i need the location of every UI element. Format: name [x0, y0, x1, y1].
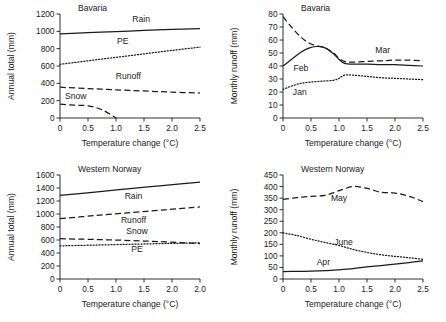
panel-bavaria-annual: Bavaria02004006008001000120000.51.01.52.…	[0, 0, 223, 161]
y-tick-label: 300	[264, 205, 278, 215]
y-tick-label: 40	[268, 61, 278, 71]
series-curve-apr	[283, 261, 423, 272]
series-label-apr: Apr	[317, 257, 331, 267]
x-tick-label: 2.0	[389, 284, 401, 294]
y-tick-label: 0	[50, 274, 55, 284]
series-label-rain: Rain	[125, 191, 143, 201]
x-tick-label: 0	[281, 284, 286, 294]
series-label-pe: PE	[117, 36, 129, 46]
x-axis-title: Temperature change (°C)	[82, 299, 179, 309]
series-curve-mar	[283, 17, 423, 63]
y-tick-label: 100	[264, 251, 278, 261]
y-tick-label: 800	[41, 44, 55, 54]
x-tick-label: 1.0	[110, 284, 122, 294]
y-tick-label: 30	[268, 74, 278, 84]
y-tick-label: 600	[41, 235, 55, 245]
panel-title: Western Norway	[78, 164, 142, 174]
series-label-pe: PE	[131, 244, 143, 254]
x-tick-label: 2.0	[389, 123, 401, 133]
y-tick-label: 250	[264, 216, 278, 226]
series-label-runoff: Runoff	[121, 215, 147, 225]
series-label-runoff: Runoff	[116, 71, 142, 81]
y-tick-label: 200	[41, 96, 55, 106]
series-label-snow: Snow	[126, 226, 148, 236]
y-tick-label: 400	[264, 182, 278, 192]
x-tick-label: 1.5	[361, 123, 373, 133]
y-tick-label: 1000	[36, 26, 55, 36]
y-tick-label: 1200	[36, 196, 55, 206]
y-tick-label: 0	[273, 274, 278, 284]
y-tick-label: 150	[264, 239, 278, 249]
figure-multi-panel-climate-charts: Bavaria02004006008001000120000.51.01.52.…	[0, 0, 446, 322]
x-tick-label: 2.0	[166, 123, 178, 133]
series-label-snow: Snow	[65, 91, 87, 101]
x-tick-label: 2.0	[194, 284, 206, 294]
y-tick-label: 1400	[36, 183, 55, 193]
y-axis-title: Annual total (mm)	[6, 193, 16, 261]
x-tick-label: 1.0	[333, 123, 345, 133]
y-tick-label: 1000	[36, 209, 55, 219]
y-axis-title: Annual total (mm)	[6, 32, 16, 100]
y-tick-label: 80	[268, 9, 278, 19]
x-axis-title: Temperature change (°C)	[82, 138, 179, 148]
x-tick-label: 2.5	[194, 123, 206, 133]
y-axis-title: Monthly runoff (mm)	[229, 28, 239, 105]
y-tick-label: 10	[268, 100, 278, 110]
x-tick-label: 0.5	[82, 284, 94, 294]
panel-title: Bavaria	[78, 3, 107, 13]
panel-western-norway-annual: Western Norway02004006008001000120014001…	[0, 161, 223, 322]
series-label-june: June	[334, 237, 353, 247]
y-tick-label: 0	[50, 113, 55, 123]
series-curve-rain	[60, 29, 200, 34]
y-tick-label: 0	[273, 113, 278, 123]
x-tick-label: 1.5	[138, 284, 150, 294]
y-tick-label: 1200	[36, 9, 55, 19]
series-curve-snow	[60, 239, 200, 244]
series-curve-june	[283, 233, 423, 260]
x-tick-label: 2.0	[166, 284, 178, 294]
x-axis-title: Temperature change (°C)	[305, 299, 402, 309]
y-tick-label: 400	[41, 78, 55, 88]
series-curve-pe	[60, 243, 200, 246]
x-tick-label: 2.5	[417, 284, 429, 294]
y-tick-label: 1600	[36, 170, 55, 180]
series-curve-snow	[60, 104, 116, 118]
series-label-rain: Rain	[132, 14, 150, 24]
y-tick-label: 350	[264, 193, 278, 203]
series-label-jan: Jan	[293, 87, 307, 97]
series-curve-may	[283, 186, 423, 201]
y-tick-label: 800	[41, 222, 55, 232]
y-tick-label: 50	[268, 262, 278, 272]
panel-title: Western Norway	[301, 164, 365, 174]
x-tick-label: 0.5	[305, 284, 317, 294]
y-tick-label: 70	[268, 22, 278, 32]
series-label-mar: Mar	[375, 45, 390, 55]
panel-bavaria-monthly: Bavaria0102030405060708000.51.01.52.02.5…	[223, 0, 446, 161]
y-tick-label: 200	[41, 261, 55, 271]
y-tick-label: 20	[268, 87, 278, 97]
x-tick-label: 0	[281, 123, 286, 133]
x-tick-label: 1.5	[361, 284, 373, 294]
series-curve-pe	[60, 47, 200, 64]
y-tick-label: 50	[268, 48, 278, 58]
y-axis-title: Monthly runoff (mm)	[229, 189, 239, 266]
x-tick-label: 1.0	[110, 123, 122, 133]
series-label-feb: Feb	[294, 63, 309, 73]
panel-western-norway-monthly: Western Norway05010015020025030035040045…	[223, 161, 446, 322]
x-axis-title: Temperature change (°C)	[305, 138, 402, 148]
y-tick-label: 60	[268, 35, 278, 45]
x-tick-label: 1.0	[333, 284, 345, 294]
y-tick-label: 450	[264, 170, 278, 180]
x-tick-label: 1.5	[138, 123, 150, 133]
x-tick-label: 0	[58, 284, 63, 294]
panel-title: Bavaria	[301, 3, 330, 13]
x-tick-label: 2.5	[417, 123, 429, 133]
x-tick-label: 0.5	[82, 123, 94, 133]
y-tick-label: 200	[264, 228, 278, 238]
x-tick-label: 0	[58, 123, 63, 133]
series-label-may: May	[331, 193, 348, 203]
y-tick-label: 600	[41, 61, 55, 71]
x-tick-label: 0.5	[305, 123, 317, 133]
y-tick-label: 400	[41, 248, 55, 258]
